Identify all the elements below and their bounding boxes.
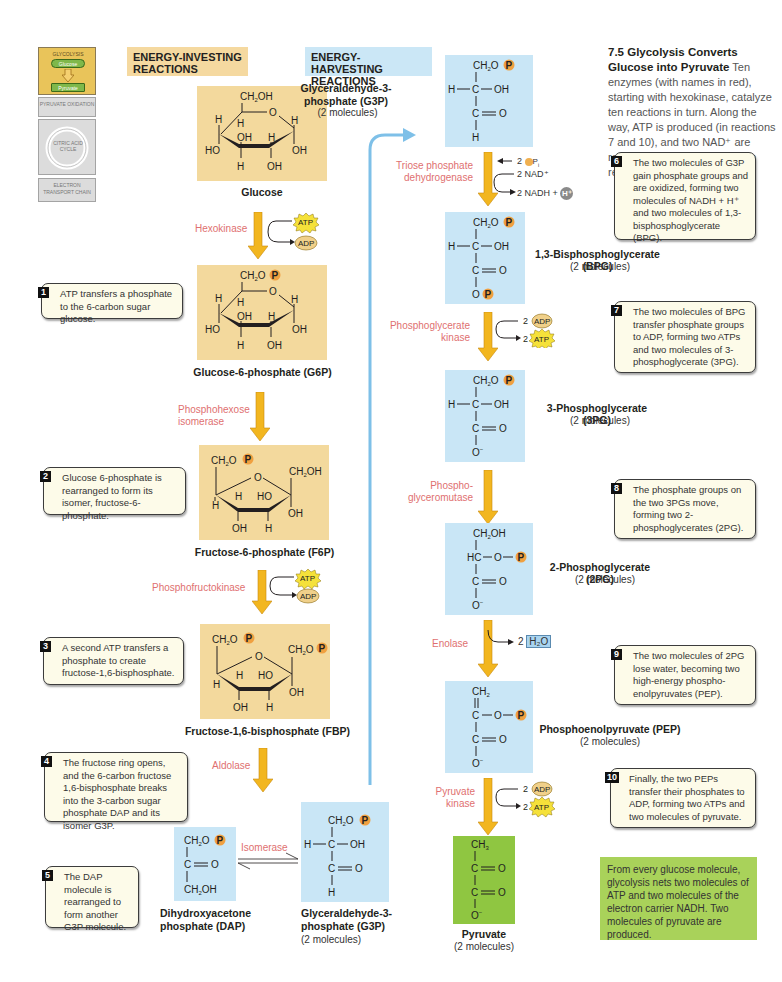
water-box: H₂O [526, 635, 551, 648]
svg-text:CH2OH: CH2OH [184, 884, 217, 896]
svg-text:ATP: ATP [534, 803, 549, 812]
svg-text:OH: OH [232, 523, 247, 534]
reaction-arrow-icon [250, 392, 270, 442]
svg-text:ADP: ADP [534, 785, 550, 794]
g3p-top-structure: CH2O P H C OH C O H [445, 55, 533, 147]
enzyme-enolase: Enolase [432, 638, 468, 650]
pyruvate-label: Pyruvate [445, 928, 523, 940]
svg-text:HC: HC [467, 552, 481, 563]
g3p-top-label: Glyceraldehyde-3-phosphate (G3P) [300, 82, 392, 108]
step-note-3-text: A second ATP transfers a phosphate to cr… [62, 642, 174, 678]
svg-text:CH2OH: CH2OH [240, 91, 273, 103]
svg-text:H: H [237, 118, 244, 129]
2pg-count: (2 molecules) [565, 574, 645, 585]
step-number-2: 2 [40, 471, 51, 482]
svg-text:CH2O: CH2O [328, 815, 354, 827]
step-note-6: 6 The two molecules of G3P gain phosphat… [614, 152, 756, 240]
step-note-1-text: ATP transfers a phosphate to the 6-carbo… [60, 288, 172, 324]
svg-text:OH: OH [237, 132, 252, 143]
svg-text:HO: HO [257, 491, 272, 502]
svg-text:C: C [328, 839, 335, 850]
svg-text:OH: OH [267, 340, 282, 351]
step-note-2: 2 Glucose 6-phosphate is rearranged to f… [43, 467, 186, 515]
svg-text:C: C [472, 265, 479, 276]
g6p-structure: CH2O P O H H H HO OH H OH H OH [197, 265, 327, 360]
svg-text:P: P [272, 270, 279, 281]
svg-text:CH2O: CH2O [184, 835, 210, 847]
overview-citric-acid-cycle: CITRIC ACID CYCLE [38, 119, 96, 175]
svg-text:O: O [499, 265, 507, 276]
intro-title: 7.5 Glycolysis Converts Glucose into Pyr… [608, 46, 738, 73]
f6p-structure: CH2O P CH2OH O H H HO OH OH H [199, 445, 329, 540]
step-note-4: 4 The fructose ring opens, and the 6-car… [44, 752, 188, 822]
svg-text:H: H [213, 679, 220, 690]
overview-glucose: Glucose [51, 59, 85, 68]
svg-text:P: P [506, 217, 513, 228]
svg-text:C: C [472, 399, 479, 410]
step-note-7: 7 The two molecules of BPG transfer phos… [614, 301, 756, 373]
svg-text:OH: OH [292, 324, 307, 335]
svg-text:O−: O− [471, 909, 483, 921]
pi-count: 2 [517, 156, 522, 166]
svg-text:OH: OH [494, 84, 509, 95]
molecule-g3p-bottom: CH2O P H C OH C O H [301, 802, 389, 902]
svg-text:ATP: ATP [534, 335, 549, 344]
step-note-5-text: The DAP molecule is rearranged to form a… [64, 871, 126, 932]
energy-harvesting-header: ENERGY-HARVESTING REACTIONS [305, 47, 432, 76]
svg-text:H: H [215, 293, 222, 304]
svg-text:ADP: ADP [534, 317, 550, 326]
overview-down-arrow-icon [62, 69, 74, 83]
svg-text:O: O [494, 710, 502, 721]
glucose-label: Glucose [197, 186, 327, 198]
pyruvate-count: (2 molecules) [445, 941, 523, 952]
pep-label: Phosphoenolpyruvate (PEP) [535, 723, 685, 735]
svg-text:HO: HO [258, 670, 273, 681]
svg-text:ATP: ATP [298, 218, 313, 227]
svg-text:OH: OH [292, 145, 307, 156]
overview-pyruvate: Pyruvate [51, 83, 85, 92]
molecule-g6p: CH2O P O H H H HO OH H OH H OH [197, 265, 327, 360]
svg-text:H: H [237, 297, 244, 308]
step-number-8: 8 [611, 483, 622, 494]
adp-atp-exchange: 2 ADP 2 ATP [490, 780, 562, 818]
svg-text:H: H [268, 311, 275, 322]
svg-text:P: P [246, 633, 253, 644]
svg-text:HO: HO [205, 145, 220, 156]
svg-text:O: O [499, 576, 507, 587]
svg-text:C: C [328, 863, 335, 874]
overview-glycolysis-label: GLYCOLYSIS [39, 51, 97, 57]
svg-text:O: O [211, 859, 219, 870]
svg-text:C: C [472, 576, 479, 587]
svg-text:H: H [265, 523, 272, 534]
fbp-label: Fructose-1,6-bisphosphate (FBP) [180, 725, 355, 737]
svg-text:C: C [472, 710, 479, 721]
dap-label: Dihydroxyacetone phosphate (DAP) [160, 907, 255, 933]
enzyme-phosphoglyceromutase: Phospho-glyceromutase [403, 480, 473, 504]
g3p-top-count: (2 molecules) [305, 107, 390, 118]
svg-text:O: O [494, 552, 502, 563]
svg-text:C: C [472, 108, 479, 119]
molecule-dap: CH2O P C O CH2OH [174, 827, 236, 901]
svg-text:CH2O: CH2O [211, 455, 237, 467]
molecule-pyruvate: CH3 C O C O O− [453, 836, 515, 924]
svg-text:C: C [472, 84, 479, 95]
svg-text:ATP: ATP [300, 574, 315, 583]
svg-text:ADP: ADP [298, 239, 314, 248]
enzyme-pyruvate-kinase: Pyruvate kinase [425, 786, 475, 810]
svg-text:H: H [237, 340, 244, 351]
svg-text:O: O [499, 423, 507, 434]
svg-text:OH: OH [289, 687, 304, 698]
svg-text:P: P [518, 710, 525, 721]
svg-text:H: H [235, 491, 242, 502]
svg-text:O: O [269, 286, 277, 297]
overview-etc: ELECTRON TRANSPORT CHAIN [38, 178, 96, 202]
water-out-arrow [486, 630, 516, 652]
bpg-count: (2 molecules) [560, 261, 640, 272]
step-number-5: 5 [42, 870, 53, 881]
2pg-structure: CH2OH HC O P C O O− [445, 523, 533, 615]
step-note-4-text: The fructose ring opens, and the 6-carbo… [63, 757, 171, 831]
step-note-6-text: The two molecules of G3P gain phosphate … [633, 157, 748, 243]
svg-text:P: P [319, 643, 326, 654]
step-note-3: 3 A second ATP transfers a phosphate to … [43, 637, 184, 685]
svg-text:O: O [254, 472, 262, 483]
